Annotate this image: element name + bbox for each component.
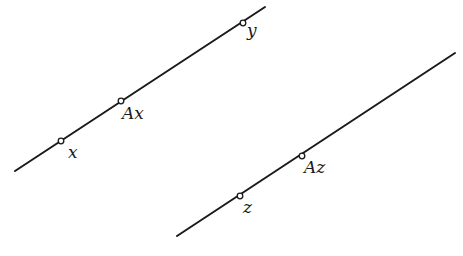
line-1-group: x Ax y bbox=[15, 7, 265, 171]
line-2 bbox=[177, 53, 455, 236]
label-z: z bbox=[242, 197, 253, 217]
label-ax: Ax bbox=[120, 103, 144, 123]
line-2-group: z Az bbox=[177, 53, 455, 236]
point-z-marker bbox=[237, 193, 243, 199]
point-y-marker bbox=[240, 20, 246, 26]
label-y: y bbox=[246, 20, 257, 40]
diagram-canvas: x Ax y z Az bbox=[0, 0, 463, 256]
line-1 bbox=[15, 7, 265, 171]
label-az: Az bbox=[302, 157, 326, 177]
label-x: x bbox=[68, 142, 78, 162]
point-x-marker bbox=[58, 138, 64, 144]
